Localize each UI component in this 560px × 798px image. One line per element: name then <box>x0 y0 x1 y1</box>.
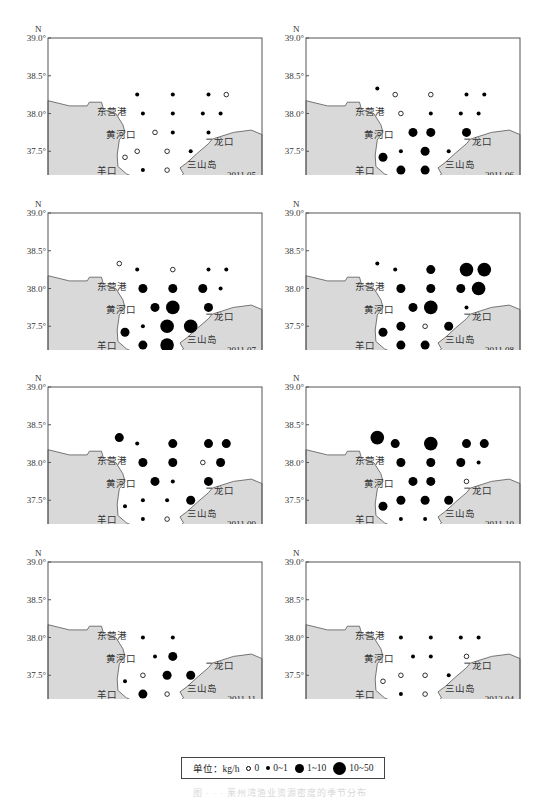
station-marker <box>141 168 145 172</box>
place-label: 三山岛 <box>445 333 475 344</box>
place-label: 黄河口 <box>106 652 136 663</box>
y-tick-label: 37.5° <box>285 146 305 156</box>
y-axis-title: N <box>293 199 300 209</box>
panel-date-label: 2011.11 <box>227 694 256 699</box>
station-marker <box>204 302 213 311</box>
station-marker <box>409 477 418 486</box>
station-marker <box>429 654 433 658</box>
station-marker <box>396 284 405 293</box>
station-marker <box>379 327 388 336</box>
station-marker <box>399 673 404 678</box>
panel-date-label: 2012.04 <box>485 694 515 699</box>
station-marker <box>123 155 128 160</box>
station-marker <box>447 149 451 153</box>
map-panel-grid: 118.0°118.5°119.0°119.5°120.0°120.5°121.… <box>0 0 560 740</box>
station-marker <box>423 673 428 678</box>
station-marker <box>135 442 139 446</box>
station-marker <box>379 502 388 511</box>
figure-caption: 图 · · · 莱州湾渔业资源密度的季节分布 <box>0 786 560 798</box>
station-marker <box>207 93 211 97</box>
station-marker <box>168 651 177 660</box>
place-label: 东营港 <box>97 455 127 466</box>
station-marker <box>421 166 430 175</box>
y-tick-label: 38.5° <box>285 594 305 604</box>
station-marker <box>160 338 174 350</box>
map-svg: 118.0°118.5°119.0°119.5°120.0°120.5°121.… <box>0 349 300 524</box>
place-label: 三山岛 <box>187 159 217 170</box>
place-label: 三山岛 <box>445 508 475 519</box>
station-marker <box>141 673 146 678</box>
y-tick-label: 38.0° <box>27 632 47 642</box>
y-tick-label: 38.0° <box>285 458 305 468</box>
map-svg: 118.0°118.5°119.0°119.5°120.0°120.5°121.… <box>258 0 558 175</box>
place-label: 龙口 <box>214 660 234 671</box>
station-marker <box>171 479 175 483</box>
station-marker <box>117 261 122 266</box>
station-marker <box>219 112 223 116</box>
station-marker <box>171 267 176 272</box>
station-marker <box>399 635 403 639</box>
station-marker <box>399 517 403 521</box>
station-marker <box>198 284 207 293</box>
place-label: 龙口 <box>472 311 492 322</box>
y-tick-label: 38.5° <box>285 71 305 81</box>
place-label: 羊口 <box>355 165 375 175</box>
place-label: 龙口 <box>214 136 234 147</box>
place-label: 龙口 <box>472 136 492 147</box>
station-marker <box>429 635 433 639</box>
station-marker <box>138 689 147 698</box>
station-marker <box>393 92 398 97</box>
station-marker <box>393 267 397 271</box>
station-marker <box>426 458 435 467</box>
station-marker <box>477 112 481 116</box>
station-marker <box>163 670 172 679</box>
y-tick-label: 37.5° <box>27 495 47 505</box>
map-svg: 118.0°118.5°119.0°119.5°120.0°120.5°121.… <box>0 524 300 699</box>
station-marker <box>375 87 379 91</box>
open-circle-icon <box>246 766 251 771</box>
station-marker <box>165 149 170 154</box>
place-label: 羊口 <box>97 688 117 698</box>
place-label: 东营港 <box>97 281 127 292</box>
place-label: 三山岛 <box>445 682 475 693</box>
station-marker <box>138 340 147 349</box>
medium-dot-icon <box>295 764 304 773</box>
place-label: 东营港 <box>97 630 127 641</box>
station-marker <box>423 517 427 521</box>
station-marker <box>216 458 225 467</box>
station-marker <box>472 281 486 295</box>
station-marker <box>391 439 400 448</box>
station-marker <box>171 112 175 116</box>
station-marker <box>160 319 174 333</box>
station-marker <box>462 128 471 137</box>
station-marker <box>138 284 147 293</box>
station-marker <box>379 153 388 162</box>
y-tick-label: 39.0° <box>285 557 305 567</box>
station-marker <box>141 517 145 521</box>
station-marker <box>168 284 177 293</box>
y-tick-label: 38.5° <box>27 420 47 430</box>
station-marker <box>115 433 124 442</box>
legend-item-small: 0~1 <box>266 763 288 773</box>
station-marker <box>135 267 139 271</box>
place-label: 东营港 <box>355 106 385 117</box>
map-panel-2011-09: 118.0°118.5°119.0°119.5°120.0°120.5°121.… <box>0 349 280 524</box>
map-svg: 118.0°118.5°119.0°119.5°120.0°120.5°121.… <box>0 0 300 175</box>
station-marker <box>423 691 428 696</box>
station-marker <box>482 93 486 97</box>
y-tick-label: 38.5° <box>285 245 305 255</box>
station-marker <box>201 460 206 465</box>
station-marker <box>201 112 205 116</box>
place-label: 龙口 <box>472 660 492 671</box>
station-marker <box>171 635 175 639</box>
legend-box: 单位：kg/h 0 0~1 1~10 10~50 <box>181 757 385 779</box>
y-tick-label: 37.5° <box>27 321 47 331</box>
station-marker <box>224 92 229 97</box>
station-marker <box>168 458 177 467</box>
y-tick-label: 38.5° <box>27 594 47 604</box>
station-marker <box>171 130 175 134</box>
station-marker <box>477 635 481 639</box>
y-tick-label: 39.0° <box>27 33 47 43</box>
station-marker <box>399 692 403 696</box>
y-tick-label: 37.5° <box>285 321 305 331</box>
